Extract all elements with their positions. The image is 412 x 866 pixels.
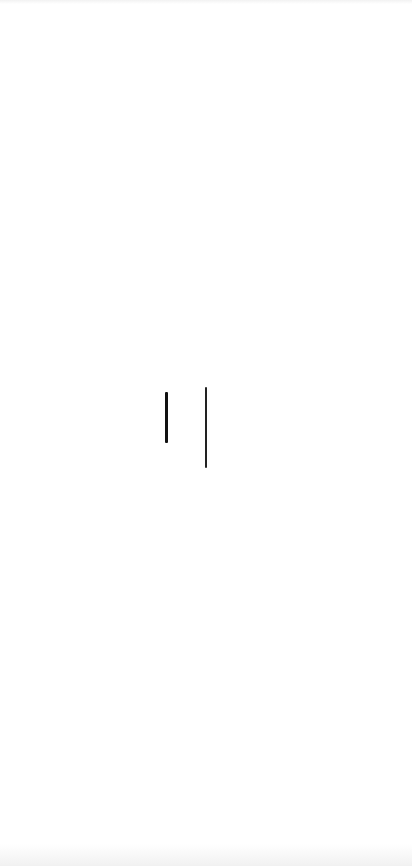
logo-left-stroke-icon bbox=[165, 392, 168, 443]
navigation-bar-area bbox=[0, 844, 412, 866]
status-bar-area bbox=[0, 0, 412, 4]
logo-right-stroke-icon bbox=[205, 387, 207, 468]
